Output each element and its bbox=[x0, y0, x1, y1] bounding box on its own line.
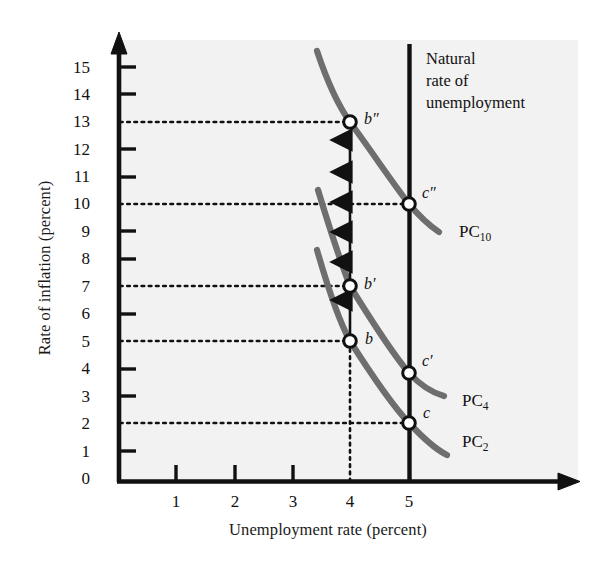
y-tick-label-5: 5 bbox=[64, 332, 90, 352]
y-tick-label-0: 0 bbox=[64, 469, 90, 489]
point-marker-c-dprime[interactable] bbox=[403, 198, 416, 211]
curve-label-PC10-text: PC bbox=[459, 222, 480, 241]
point-label-b-prime: b′ bbox=[364, 275, 376, 293]
point-label-c-prime: c′ bbox=[422, 352, 433, 370]
curve-label-PC4: PC4 bbox=[462, 391, 489, 412]
chart-canvas bbox=[0, 0, 607, 568]
point-label-c-double-prime: c″ bbox=[422, 184, 436, 202]
x-axis-arrowhead bbox=[558, 473, 580, 490]
x-tick-label-4: 4 bbox=[337, 492, 363, 512]
y-tick-label-4: 4 bbox=[64, 359, 90, 379]
y-tick-label-10: 10 bbox=[64, 194, 90, 214]
y-tick-label-14: 14 bbox=[64, 85, 90, 105]
natural-rate-note-line-1: Natural bbox=[426, 48, 475, 71]
y-tick-label-8: 8 bbox=[64, 249, 90, 269]
curve-label-PC2: PC2 bbox=[462, 432, 489, 453]
curve-label-PC2-text: PC bbox=[462, 432, 483, 451]
natural-rate-note-line-2: rate of bbox=[426, 70, 469, 93]
y-tick-label-7: 7 bbox=[64, 277, 90, 297]
y-tick-label-13: 13 bbox=[64, 112, 90, 132]
curve-label-PC4-sub: 4 bbox=[483, 400, 489, 412]
curve-label-PC2-sub: 2 bbox=[483, 441, 489, 453]
x-axis-ticks bbox=[176, 465, 293, 481]
y-axis-arrowhead bbox=[111, 32, 127, 54]
point-marker-b[interactable] bbox=[344, 335, 357, 348]
point-marker-c[interactable] bbox=[403, 417, 416, 430]
y-tick-label-1: 1 bbox=[64, 442, 90, 462]
x-tick-label-1: 1 bbox=[163, 492, 189, 512]
x-tick-label-2: 2 bbox=[222, 492, 248, 512]
natural-rate-note-line-3: unemployment bbox=[426, 92, 525, 115]
curve-label-PC10: PC10 bbox=[459, 222, 491, 243]
x-axis-title: Unemployment rate (percent) bbox=[118, 520, 538, 540]
point-label-b: b bbox=[365, 330, 373, 348]
y-tick-label-9: 9 bbox=[64, 222, 90, 242]
phillips-curve-figure: 15 14 13 12 11 10 9 8 7 6 5 4 3 2 1 0 1 … bbox=[0, 0, 607, 568]
y-axis-title: Rate of inflation (percent) bbox=[35, 138, 55, 398]
curve-label-PC4-text: PC bbox=[462, 391, 483, 410]
y-tick-label-3: 3 bbox=[64, 387, 90, 407]
x-tick-label-3: 3 bbox=[280, 492, 306, 512]
curve-label-PC10-sub: 10 bbox=[480, 231, 492, 243]
x-tick-label-5: 5 bbox=[396, 492, 422, 512]
point-label-c: c bbox=[423, 404, 430, 422]
y-axis-ticks bbox=[119, 67, 136, 451]
point-marker-b-prime[interactable] bbox=[344, 280, 357, 293]
point-marker-b-dprime[interactable] bbox=[344, 116, 357, 129]
point-label-b-double-prime: b″ bbox=[364, 110, 379, 128]
y-tick-label-6: 6 bbox=[64, 304, 90, 324]
point-marker-c-prime[interactable] bbox=[403, 367, 416, 380]
dotted-guide-lines bbox=[120, 122, 409, 481]
y-tick-label-12: 12 bbox=[64, 140, 90, 160]
y-tick-label-11: 11 bbox=[64, 167, 90, 187]
y-tick-label-15: 15 bbox=[64, 58, 90, 78]
y-tick-label-2: 2 bbox=[64, 414, 90, 434]
